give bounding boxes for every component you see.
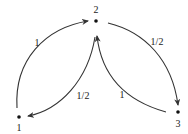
node-1-label: 1 — [17, 122, 22, 133]
node-2: 2 — [94, 4, 99, 23]
node-1-dot — [17, 115, 21, 119]
edge-2-to-1: 1/2 — [28, 37, 95, 116]
node-3: 3 — [176, 110, 181, 129]
node-2-label: 2 — [94, 4, 99, 15]
edge-2-to-3-weight: 1/2 — [151, 36, 164, 47]
node-3-label: 3 — [176, 118, 181, 129]
markov-chain-diagram: 1 1/2 1/2 1 1 2 3 — [0, 0, 188, 134]
edge-2-to-1-arrow — [28, 37, 95, 116]
node-3-dot — [176, 110, 180, 114]
edge-1-to-2-weight: 1 — [35, 37, 40, 48]
edge-2-to-3: 1/2 — [108, 23, 178, 105]
edge-3-to-2: 1 — [97, 36, 166, 112]
edge-3-to-2-arrow — [97, 36, 166, 112]
edge-2-to-3-arrow — [108, 23, 178, 105]
node-2-dot — [94, 19, 98, 23]
node-1: 1 — [17, 115, 22, 133]
edge-2-to-1-weight: 1/2 — [77, 90, 90, 101]
edge-3-to-2-weight: 1 — [120, 89, 125, 100]
